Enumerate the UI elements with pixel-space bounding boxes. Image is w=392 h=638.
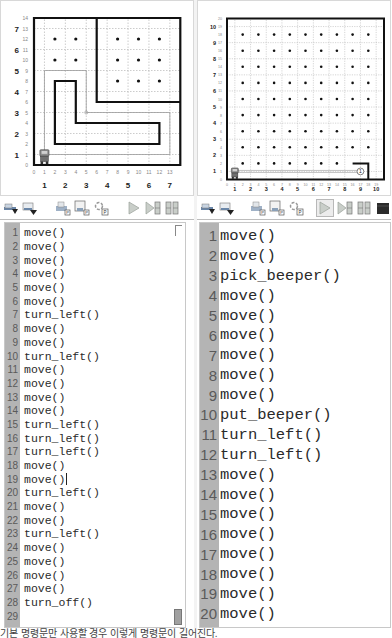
code-line[interactable]: 11turn_left() (200, 425, 390, 445)
code-text: move() (24, 473, 65, 486)
code-line[interactable]: 15turn_left() (5, 418, 185, 432)
axis-label: 11 (218, 89, 222, 93)
step-button[interactable] (145, 200, 161, 216)
code-line[interactable]: 21move() (5, 500, 185, 514)
code-line[interactable]: 19move() (5, 472, 185, 486)
left-code-editor[interactable]: 1move()2move()3move()4move()5move()6move… (4, 222, 186, 628)
code-line[interactable]: 10turn_left() (5, 349, 185, 363)
code-line[interactable]: 10put_beeper() (200, 405, 390, 425)
code-line[interactable]: 18move() (5, 459, 185, 473)
avenue-label: 10 (373, 186, 379, 192)
grid-dot (158, 79, 161, 82)
code-line[interactable]: 29 (5, 609, 185, 623)
save-world-button[interactable] (22, 200, 38, 216)
avenue-label: 7 (168, 181, 173, 190)
grid-dot (367, 49, 370, 52)
code-line[interactable]: 1move() (200, 226, 390, 246)
line-number: 2 (200, 247, 217, 264)
code-line[interactable]: 14move() (200, 485, 390, 505)
code-line[interactable]: 16move() (200, 524, 390, 544)
load-program-button[interactable]: P (55, 200, 71, 216)
load-world-button[interactable] (200, 200, 216, 216)
load-world-button[interactable] (3, 200, 19, 216)
street-label: 5 (213, 104, 216, 110)
code-line[interactable]: 18move() (200, 564, 390, 584)
save-world-button[interactable] (219, 200, 235, 216)
load-program-button[interactable]: P (250, 200, 266, 216)
code-line[interactable]: 14move() (5, 404, 185, 418)
grid-dot (367, 66, 370, 69)
code-line[interactable]: 7move() (200, 345, 390, 365)
code-line[interactable]: 19move() (200, 584, 390, 604)
code-line[interactable]: 22move() (5, 513, 185, 527)
scrollbar-thumb[interactable] (174, 609, 182, 625)
axis-label: 7 (25, 89, 28, 95)
code-line[interactable]: 15move() (200, 504, 390, 524)
save-program-button[interactable]: P (74, 200, 90, 216)
code-line[interactable]: 26move() (5, 568, 185, 582)
code-line[interactable]: 2move() (200, 246, 390, 266)
code-text: turn_left() (24, 432, 100, 445)
save-program-button[interactable]: P (269, 200, 285, 216)
axis-label: 12 (22, 36, 28, 42)
reload-program-button[interactable]: P (288, 200, 304, 216)
code-line[interactable]: 13move() (200, 465, 390, 485)
grid-dot (351, 33, 354, 36)
axis-label: 11 (146, 169, 151, 175)
code-line[interactable]: 9move() (200, 385, 390, 405)
axis-label: 5 (85, 169, 88, 175)
code-line[interactable]: 8move() (5, 322, 185, 336)
code-text: move() (220, 585, 276, 603)
code-line[interactable]: 7turn_left() (5, 308, 185, 322)
code-line[interactable]: 25move() (5, 555, 185, 569)
code-line[interactable]: 12move() (5, 377, 185, 391)
grid-dot (273, 66, 276, 69)
code-line[interactable]: 13move() (5, 390, 185, 404)
step-button[interactable] (337, 200, 353, 216)
code-line[interactable]: 6move() (5, 294, 185, 308)
code-line[interactable]: 23turn_left() (5, 527, 185, 541)
grid-dot (304, 162, 307, 165)
code-line[interactable]: 16turn_left() (5, 431, 185, 445)
grid-dot (241, 98, 244, 101)
grid-dot (257, 66, 260, 69)
code-line[interactable]: 27move() (5, 582, 185, 596)
code-line[interactable]: 8move() (200, 365, 390, 385)
code-line[interactable]: 20move() (200, 604, 390, 624)
axis-label: 8 (116, 169, 119, 175)
code-line[interactable]: 4move() (5, 267, 185, 281)
grid-dot (273, 33, 276, 36)
code-line[interactable]: 17move() (200, 544, 390, 564)
code-line[interactable]: 20turn_left() (5, 486, 185, 500)
code-text: move() (24, 281, 65, 294)
pause-button[interactable] (164, 200, 180, 216)
scrollbar-top-cap[interactable] (175, 225, 182, 236)
save-world-icon (22, 200, 38, 216)
code-line[interactable]: 5move() (200, 306, 390, 326)
code-line[interactable]: 24move() (5, 541, 185, 555)
right-code-editor[interactable]: 1move()2move()3pick_beeper()4move()5move… (199, 222, 391, 628)
code-line[interactable]: 4move() (200, 286, 390, 306)
code-line[interactable]: 3move() (5, 253, 185, 267)
code-line[interactable]: 3pick_beeper() (200, 266, 390, 286)
code-text: move() (220, 486, 276, 504)
line-number: 4 (200, 287, 217, 304)
code-line[interactable]: 28turn_off() (5, 596, 185, 610)
code-lines: 1move()2move()3pick_beeper()4move()5move… (200, 226, 390, 628)
code-line[interactable]: 6move() (200, 325, 390, 345)
code-line[interactable]: 12turn_left() (200, 445, 390, 465)
run-button[interactable] (126, 200, 142, 216)
code-line[interactable]: 1move() (5, 226, 185, 240)
code-line[interactable]: 11move() (5, 363, 185, 377)
code-line[interactable]: 17turn_left() (5, 445, 185, 459)
run-button[interactable] (316, 199, 334, 217)
stop-button[interactable] (375, 200, 391, 216)
code-line[interactable]: 5move() (5, 281, 185, 295)
code-text: move() (24, 500, 65, 513)
code-line[interactable]: 9move() (5, 336, 185, 350)
grid-dot (351, 49, 354, 52)
reload-program-button[interactable]: P (93, 200, 109, 216)
pause-button[interactable] (356, 200, 372, 216)
code-text: turn_left() (24, 527, 100, 540)
code-line[interactable]: 2move() (5, 240, 185, 254)
